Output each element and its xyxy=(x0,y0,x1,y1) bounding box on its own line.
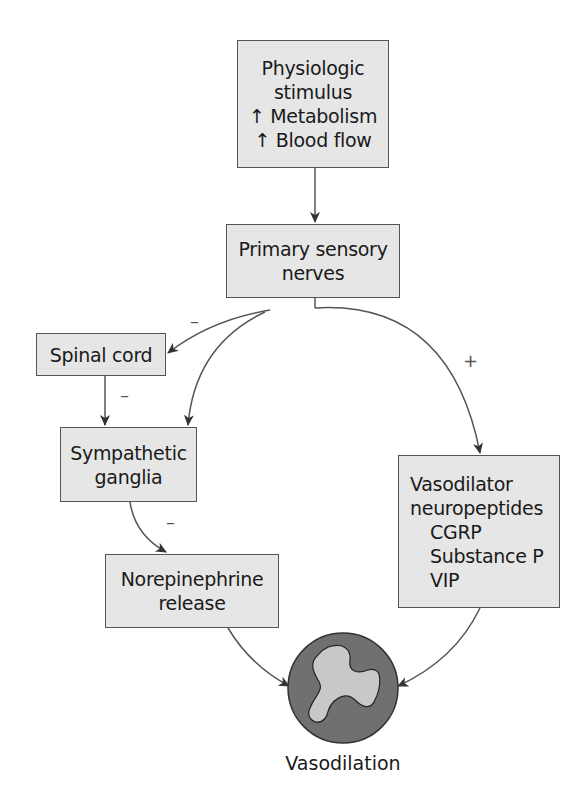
node-text: stimulus xyxy=(238,80,388,104)
blood-vessel-icon xyxy=(288,633,398,743)
node-text: ↑ Blood flow xyxy=(238,128,388,152)
node-text: CGRP xyxy=(410,520,559,544)
node-text: nerves xyxy=(227,261,399,285)
node-text: Sympathetic xyxy=(61,441,196,465)
sympathetic-ganglia-box: Sympathetic ganglia xyxy=(60,427,197,502)
physiologic-stimulus-box: Physiologic stimulus ↑ Metabolism ↑ Bloo… xyxy=(237,40,389,168)
vasodilation-label: Vasodilation xyxy=(243,752,443,774)
primary-sensory-nerves-box: Primary sensory nerves xyxy=(226,224,400,298)
inhibit-sign: – xyxy=(120,386,129,404)
node-text: Vasodilator xyxy=(410,472,559,496)
norepinephrine-release-box: Norepinephrine release xyxy=(105,554,279,628)
node-text: Norepinephrine xyxy=(106,567,278,591)
node-text: ↑ Metabolism xyxy=(238,104,388,128)
node-text: ganglia xyxy=(61,465,196,489)
spinal-cord-box: Spinal cord xyxy=(36,333,166,376)
vasodilator-neuropeptides-box: Vasodilator neuropeptides CGRP Substance… xyxy=(398,455,560,608)
node-text: Primary sensory xyxy=(227,237,399,261)
excite-sign: + xyxy=(463,352,478,370)
node-text: Physiologic xyxy=(238,56,388,80)
node-text: Substance P xyxy=(410,544,559,568)
node-text: Spinal cord xyxy=(37,343,165,367)
inhibit-sign: – xyxy=(190,312,199,330)
inhibit-sign: – xyxy=(166,513,175,531)
node-text: neuropeptides xyxy=(410,496,559,520)
node-text: release xyxy=(106,591,278,615)
node-text: VIP xyxy=(410,568,559,592)
